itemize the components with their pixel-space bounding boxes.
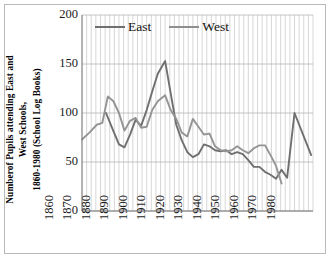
legend-label-east: East [128, 20, 151, 34]
x-tick-label-text: 1900 [116, 195, 131, 235]
x-tick-label-text: 1940 [190, 195, 205, 235]
legend-swatch-west [169, 26, 199, 28]
plot-area [82, 15, 313, 211]
y-axis-title-line-1: Numberof Pupils attending East and [4, 55, 18, 203]
x-tick-label-text: 1860 [42, 195, 57, 235]
legend-swatch-east [95, 26, 125, 28]
legend-label-west: West [202, 20, 229, 34]
x-tick-label-text: 1970 [245, 195, 260, 235]
legend-item-east[interactable]: East [95, 20, 151, 34]
line-chart-figure: Numberof Pupils attending East and West … [0, 0, 331, 259]
x-tick-label-text: 1870 [60, 195, 75, 235]
x-tick-label-text: 1980 [264, 195, 279, 235]
x-tick-label-text: 1880 [79, 195, 94, 235]
data-series-group [82, 61, 311, 184]
y-tick-label: 100 [48, 105, 78, 120]
y-axis-title-line-2: West Schools, [17, 55, 31, 203]
plot-svg [82, 15, 313, 211]
y-tick-label: 50 [48, 154, 78, 169]
y-axis-title: Numberof Pupils attending East and West … [0, 0, 48, 259]
x-tick-label-text: 1960 [227, 195, 242, 235]
y-tick-label: 200 [48, 7, 78, 22]
y-axis-title-line-3: 1860-1980 (School Log Books) [31, 55, 45, 203]
x-tick-label: 1970 [278, 213, 292, 257]
x-tick-label-text: 1910 [134, 195, 149, 235]
x-tick-label: 1980 [297, 213, 311, 257]
x-tick-label-text: 1930 [171, 195, 186, 235]
x-tick-label-text: 1950 [208, 195, 223, 235]
legend-item-west[interactable]: West [169, 20, 229, 34]
x-axis-tick-labels: 1860187018801890190019101920193019401950… [82, 213, 313, 259]
x-tick-label-text: 1890 [97, 195, 112, 235]
y-tick-label: 150 [48, 56, 78, 71]
chart-legend: East West [95, 20, 229, 34]
x-tick-label-text: 1920 [153, 195, 168, 235]
